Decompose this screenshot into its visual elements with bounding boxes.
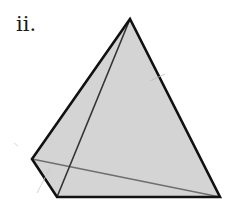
pyramid-diagram (0, 0, 239, 203)
pyramid-face (32, 19, 220, 197)
faint-mark (14, 143, 18, 146)
